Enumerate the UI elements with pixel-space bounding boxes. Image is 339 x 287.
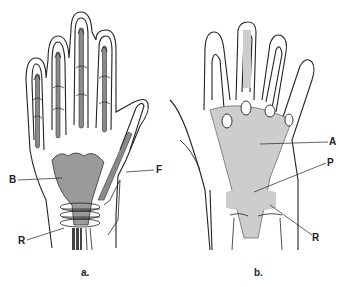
label-r-b: R — [312, 233, 319, 243]
panel-b-hand — [170, 22, 328, 250]
panel-a-hand — [18, 12, 154, 250]
label-r-a: R — [18, 236, 25, 246]
caption-a: a. — [81, 268, 89, 278]
label-b: B — [9, 175, 16, 185]
diagram-canvas — [0, 0, 339, 287]
label-a: A — [329, 137, 336, 147]
hand-anatomy-figure: B F R A P R a. b. — [0, 0, 339, 287]
label-f: F — [156, 165, 162, 175]
caption-b: b. — [254, 268, 263, 278]
label-p: P — [327, 158, 334, 168]
